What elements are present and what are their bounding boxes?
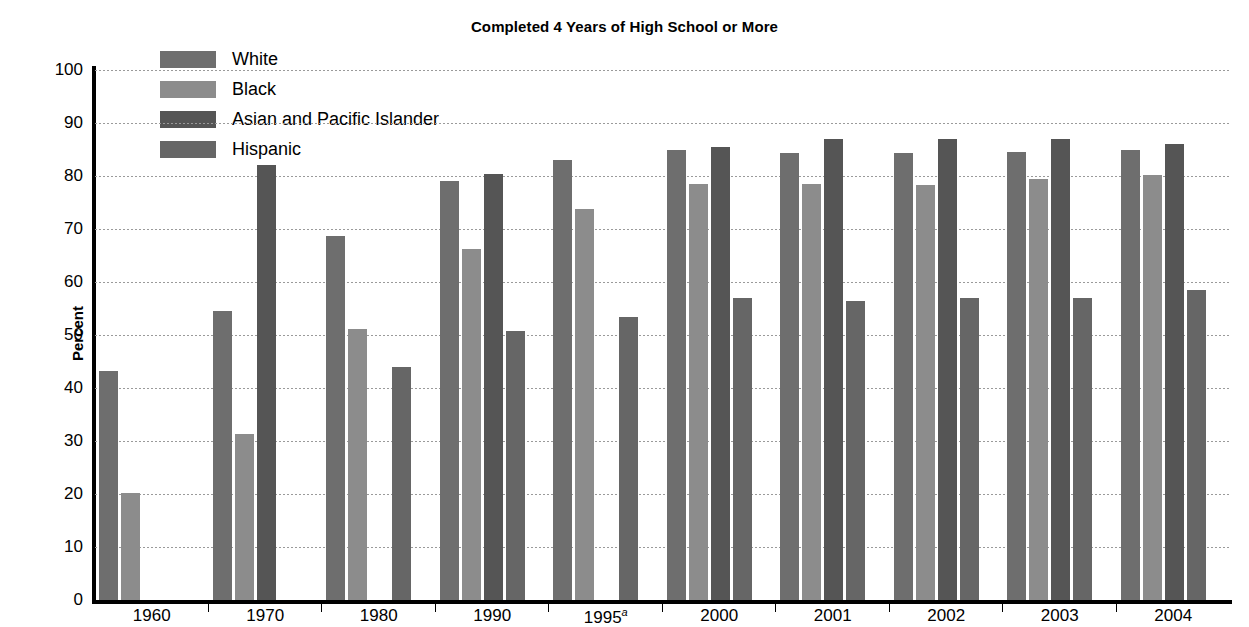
bar (348, 329, 367, 600)
bar (1073, 298, 1092, 600)
bar (257, 165, 276, 600)
legend-swatch-icon (160, 51, 216, 68)
legend-item-label: White (232, 50, 278, 68)
bar (553, 160, 572, 600)
bar (619, 317, 638, 600)
bar (213, 311, 232, 600)
y-tick-label: 90 (37, 114, 83, 131)
bar-group: 2001 (776, 70, 890, 600)
bar-group: 2003 (1003, 70, 1117, 600)
bar (780, 153, 799, 600)
bar-group: 1970 (209, 70, 323, 600)
bar-group: 2000 (663, 70, 777, 600)
y-tick-label: 30 (37, 432, 83, 449)
y-tick-label: 20 (37, 485, 83, 502)
bar (1143, 175, 1162, 600)
bar (99, 371, 118, 600)
y-tick-label: 10 (37, 538, 83, 555)
x-tick-label: 1990 (436, 606, 550, 626)
legend-item: White (160, 46, 439, 72)
x-tick-label: 2002 (890, 606, 1004, 626)
bar (440, 181, 459, 600)
bar-group: 1995a (549, 70, 663, 600)
bar (506, 331, 525, 600)
y-tick-label: 100 (37, 61, 83, 78)
y-tick-label: 50 (37, 326, 83, 343)
bar (1121, 150, 1140, 601)
bar (802, 184, 821, 600)
bar (733, 298, 752, 600)
x-tick-label: 1995a (549, 606, 663, 627)
bar-group: 1990 (436, 70, 550, 600)
chart-title: Completed 4 Years of High School or More (0, 18, 1249, 35)
x-tick-label: 1970 (209, 606, 323, 626)
x-tick-label: 2004 (1117, 606, 1231, 626)
bar (894, 153, 913, 600)
x-tick-label: 2001 (776, 606, 890, 626)
bar-group: 2004 (1117, 70, 1231, 600)
chart-page: Completed 4 Years of High School or More… (0, 0, 1249, 627)
bar (846, 301, 865, 600)
bar-group: 1980 (322, 70, 436, 600)
bar (484, 174, 503, 600)
bar (235, 434, 254, 600)
y-tick-label: 60 (37, 273, 83, 290)
y-tick-label: 80 (37, 167, 83, 184)
bar (938, 139, 957, 600)
bar (1051, 139, 1070, 600)
x-tick-label: 2003 (1003, 606, 1117, 626)
bar (326, 236, 345, 600)
bar (916, 185, 935, 600)
bar (689, 184, 708, 600)
bar (711, 147, 730, 600)
bar (824, 139, 843, 600)
bar (1187, 290, 1206, 600)
y-tick-label: 40 (37, 379, 83, 396)
x-tick-label: 2000 (663, 606, 777, 626)
bar (1029, 179, 1048, 600)
bar (1007, 152, 1026, 600)
bar (960, 298, 979, 600)
bar (392, 367, 411, 600)
bar (462, 249, 481, 600)
plot-area: Percent 1009080706050403020100 196019701… (95, 70, 1230, 600)
x-tick-label: 1960 (95, 606, 209, 626)
bar-group: 1960 (95, 70, 209, 600)
bar-groups: 19601970198019901995a2000200120022003200… (95, 70, 1230, 600)
x-tick-footnote-marker: a (622, 606, 628, 618)
bar-group: 2002 (890, 70, 1004, 600)
bar (1165, 144, 1184, 600)
bar (667, 150, 686, 600)
bar (575, 209, 594, 600)
y-tick-label: 0 (37, 591, 83, 608)
y-tick-label: 70 (37, 220, 83, 237)
x-tick-label: 1980 (322, 606, 436, 626)
bar (121, 493, 140, 600)
